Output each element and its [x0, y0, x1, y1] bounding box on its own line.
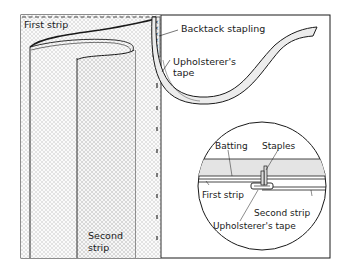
inset-label-batting: Batting — [215, 141, 248, 151]
inset-label-upholsterers-tape: Upholsterer's tape — [213, 221, 296, 231]
inset-label-second-strip: Second strip — [254, 208, 310, 218]
inset-label-staples: Staples — [262, 141, 296, 151]
label-upholsterers-tape-1: Upholsterer's — [173, 56, 236, 67]
second-strip-panel — [77, 50, 135, 258]
label-second-strip-2: strip — [88, 242, 109, 253]
label-upholsterers-tape-2: tape — [173, 67, 195, 78]
inset-label-first-strip: First strip — [202, 190, 244, 200]
diagram: × × × × × × First strip Backtack staplin… — [0, 0, 344, 270]
label-second-strip-1: Second — [88, 230, 123, 241]
label-first-strip: First strip — [24, 19, 68, 30]
label-backtack-stapling: Backtack stapling — [181, 23, 265, 34]
